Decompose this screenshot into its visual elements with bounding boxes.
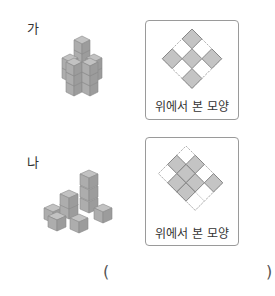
top-view-grid-na — [150, 142, 234, 220]
top-view-caption-na: 위에서 본 모양 — [146, 224, 238, 241]
top-view-box-na: 위에서 본 모양 — [145, 137, 239, 246]
top-view-grid-ga — [158, 27, 226, 93]
answer-blank[interactable] — [115, 262, 263, 282]
answer-open-paren: ( — [103, 262, 109, 281]
cube-stack-ga — [52, 34, 112, 100]
top-view-box-ga: 위에서 본 모양 — [145, 20, 239, 120]
top-view-caption-ga: 위에서 본 모양 — [146, 97, 238, 114]
cube-stack-na — [38, 162, 118, 238]
answer-close-paren: ) — [266, 262, 272, 281]
problem-label-ga: 가 — [27, 18, 39, 37]
